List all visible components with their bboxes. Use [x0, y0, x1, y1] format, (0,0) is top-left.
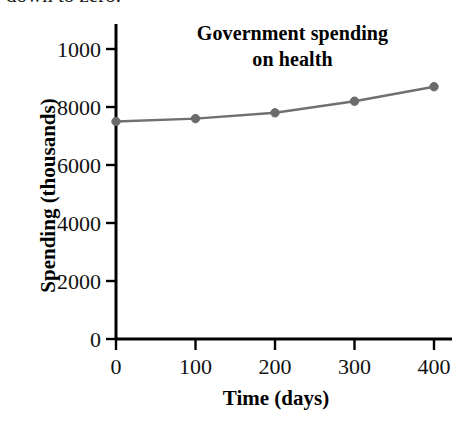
x-axis-tick-labels: 0100200300400: [111, 354, 451, 379]
y-tick-label: 6000: [57, 153, 101, 178]
y-tick-label: 8000: [57, 95, 101, 120]
y-tick-label: 1000: [57, 37, 101, 62]
data-point-marker: [430, 83, 438, 91]
x-tick-label: 200: [259, 354, 292, 379]
y-axis-tick-labels: 020004000600080001000: [57, 37, 101, 352]
data-point-marker: [271, 109, 279, 117]
chart-figure: Government spending on health Spending (…: [0, 0, 460, 422]
x-tick-label: 400: [418, 354, 451, 379]
data-point-marker: [350, 97, 358, 105]
data-point-marker: [112, 117, 120, 125]
x-tick-label: 100: [179, 354, 212, 379]
y-tick-label: 2000: [57, 269, 101, 294]
plot-area: 020004000600080001000 0100200300400: [0, 0, 460, 422]
y-tick-label: 0: [90, 327, 101, 352]
x-tick-label: 0: [111, 354, 122, 379]
data-point-marker: [191, 114, 199, 122]
y-tick-label: 4000: [57, 211, 101, 236]
x-tick-label: 300: [338, 354, 371, 379]
